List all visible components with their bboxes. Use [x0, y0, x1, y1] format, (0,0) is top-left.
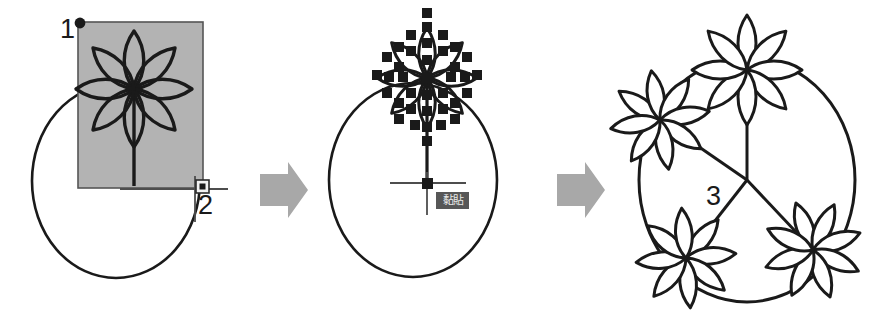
flower-bottom-left [616, 188, 757, 327]
right-arrow-icon [557, 162, 605, 218]
panel-3-graphic [608, 0, 885, 327]
step-label-2: 2 [198, 192, 213, 219]
panel-grips-step: 3 [310, 0, 560, 327]
flower-top [692, 15, 802, 125]
paste-tooltip: 黏貼 [436, 192, 469, 209]
panel-1-graphic [0, 0, 258, 327]
arrow-step-2-to-3 [557, 162, 605, 218]
panel-selection-step: 1 2 [0, 0, 258, 327]
panel-result-step [608, 0, 885, 327]
flower-bottom-right [749, 186, 877, 314]
right-arrow-icon [260, 162, 308, 218]
selection-grips[interactable] [372, 8, 482, 146]
step-label-1: 1 [60, 16, 75, 43]
basepoint-marker[interactable] [422, 178, 433, 189]
panel-2-graphic [310, 0, 560, 327]
figure-canvas: 1 2 [0, 0, 885, 327]
arrow-step-1-to-2 [260, 162, 308, 218]
corner-handle-dot[interactable] [75, 18, 86, 29]
